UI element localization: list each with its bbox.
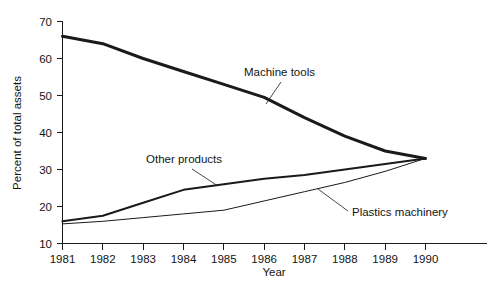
x-tick-label: 1988 bbox=[332, 253, 358, 265]
series-label-machine-tools: Machine tools bbox=[244, 66, 315, 78]
x-tick-label: 1984 bbox=[171, 253, 197, 265]
x-tick-label: 1987 bbox=[292, 253, 318, 265]
y-tick-label: 10 bbox=[39, 238, 52, 250]
y-tick-label: 20 bbox=[39, 201, 52, 213]
x-tick-label: 1986 bbox=[251, 253, 277, 265]
series-label-other-products: Other products bbox=[146, 153, 222, 165]
x-tick-label: 1982 bbox=[90, 253, 116, 265]
series-label-plastics-machinery: Plastics machinery bbox=[352, 206, 448, 218]
x-tick-label: 1990 bbox=[413, 253, 439, 265]
x-tick-label: 1985 bbox=[211, 253, 237, 265]
y-tick-label: 70 bbox=[39, 16, 52, 28]
y-tick-label: 40 bbox=[39, 127, 52, 139]
chart-canvas: 10203040506070 Percent of total assets 1… bbox=[0, 0, 499, 286]
x-tick-label: 1989 bbox=[372, 253, 398, 265]
y-tick-label: 50 bbox=[39, 90, 52, 102]
x-tick-label: 1981 bbox=[50, 253, 76, 265]
line-chart: 10203040506070 Percent of total assets 1… bbox=[0, 0, 499, 286]
y-tick-label: 30 bbox=[39, 164, 52, 176]
x-tick-label: 1983 bbox=[130, 253, 156, 265]
x-axis-title: Year bbox=[262, 266, 285, 278]
y-axis-title: Percent of total assets bbox=[11, 76, 23, 190]
y-tick-label: 60 bbox=[39, 53, 52, 65]
